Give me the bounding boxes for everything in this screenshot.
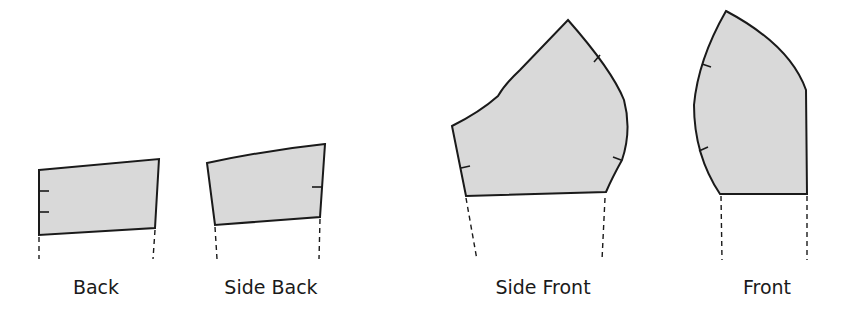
- side-front-label: Side Front: [495, 276, 590, 298]
- pattern-diagram: Back Side Back Side Front Front: [0, 0, 855, 323]
- side-front-shape: [452, 20, 628, 196]
- side-back-label: Side Back: [224, 276, 317, 298]
- side-front-guide-right: [602, 198, 605, 260]
- back-label: Back: [73, 276, 119, 298]
- back-guide-right: [153, 230, 155, 259]
- side-back-guide-right: [319, 219, 320, 259]
- front-piece: Front: [694, 11, 807, 298]
- front-label: Front: [743, 276, 791, 298]
- back-piece: Back: [39, 159, 159, 298]
- front-guide-left: [721, 196, 722, 260]
- side-back-piece: Side Back: [207, 144, 325, 298]
- side-front-piece: Side Front: [452, 20, 628, 298]
- side-back-shape: [207, 144, 325, 225]
- back-shape: [39, 159, 159, 235]
- side-front-guide-left: [466, 198, 477, 260]
- side-back-guide-left: [215, 227, 217, 259]
- front-shape: [694, 11, 807, 194]
